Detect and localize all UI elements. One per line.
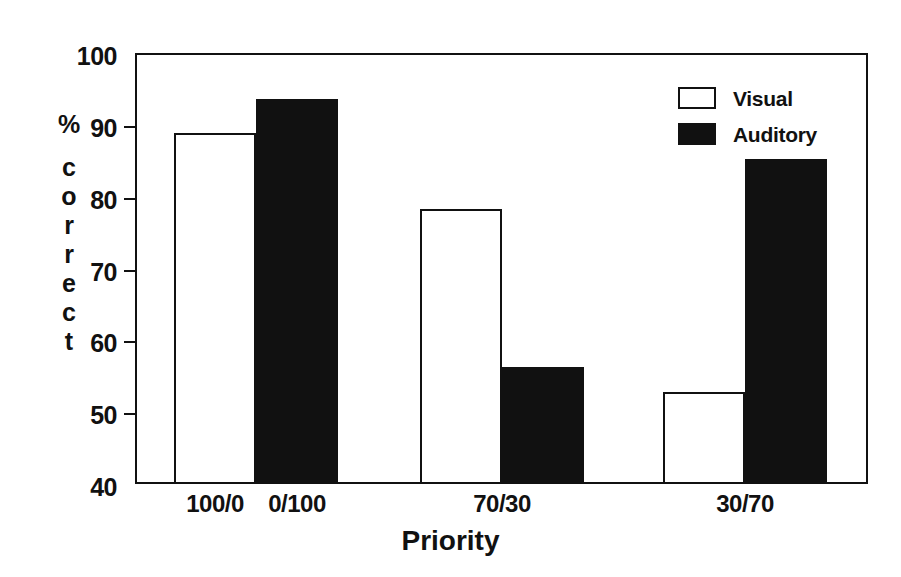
x-axis-tick-label: 0/100 bbox=[268, 492, 326, 516]
y-axis-tick-label: 80 bbox=[90, 187, 117, 212]
legend-swatch-visual-icon bbox=[678, 87, 716, 109]
bar-chart-figure: % c o r r e c t 405060708090100 100/00/1… bbox=[0, 0, 901, 577]
y-axis-tick: 70 bbox=[124, 270, 137, 272]
y-axis-title-glyph: c bbox=[52, 298, 86, 327]
y-axis-title-glyph: o bbox=[52, 182, 86, 211]
y-axis-title-glyph: e bbox=[52, 269, 86, 298]
x-axis-title: Priority bbox=[0, 527, 901, 555]
bar-0-100-auditory bbox=[256, 99, 338, 482]
y-axis-tick: 90 bbox=[124, 126, 137, 128]
y-axis-title-glyph: r bbox=[52, 240, 86, 269]
y-axis-title-glyph: c bbox=[52, 153, 86, 182]
y-axis-tick-label: 40 bbox=[90, 475, 117, 500]
y-axis-title-spacer bbox=[52, 139, 86, 153]
legend-label-auditory: Auditory bbox=[733, 124, 817, 145]
bar-100-0-visual bbox=[174, 133, 256, 482]
y-axis-tick: 60 bbox=[124, 341, 137, 343]
y-axis-tick-label: 70 bbox=[90, 259, 117, 284]
legend-entry-visual: Visual bbox=[678, 80, 868, 116]
chart-legend: Visual Auditory bbox=[678, 80, 868, 152]
y-axis-tick-label: 50 bbox=[90, 403, 117, 428]
legend-entry-auditory: Auditory bbox=[678, 116, 868, 152]
y-axis-title-glyph: t bbox=[52, 327, 86, 356]
y-axis-title: % c o r r e c t bbox=[52, 110, 86, 356]
y-axis-title-glyph: r bbox=[52, 211, 86, 240]
y-axis-tick-label: 100 bbox=[77, 44, 117, 69]
y-axis-tick-label: 90 bbox=[90, 115, 117, 140]
bar-30-70-visual bbox=[663, 392, 745, 482]
y-axis-title-glyph: % bbox=[52, 110, 86, 139]
x-axis-tick-label: 100/0 bbox=[186, 492, 244, 516]
y-axis-tick: 50 bbox=[124, 413, 137, 415]
bar-30-70-auditory bbox=[745, 159, 827, 482]
y-axis-tick: 40 bbox=[124, 485, 137, 487]
legend-swatch-auditory-icon bbox=[678, 123, 716, 145]
y-axis-tick: 100 bbox=[124, 54, 137, 56]
y-axis-tick: 80 bbox=[124, 198, 137, 200]
x-axis-tick-label: 30/70 bbox=[716, 492, 774, 516]
x-axis-tick-label: 70/30 bbox=[473, 492, 531, 516]
y-axis-tick-label: 60 bbox=[90, 331, 117, 356]
bar-70-30-visual bbox=[420, 209, 502, 482]
legend-label-visual: Visual bbox=[733, 88, 793, 109]
bar-70-30-auditory bbox=[502, 367, 584, 482]
